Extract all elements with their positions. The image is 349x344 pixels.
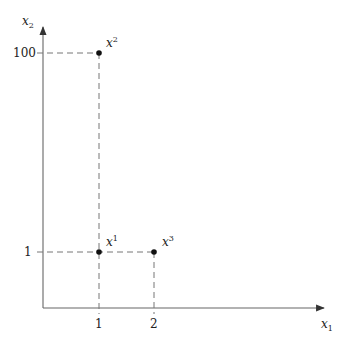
guide-lines <box>37 53 154 314</box>
point-x3 <box>151 249 157 255</box>
x-tick-1: 1 <box>95 317 103 331</box>
y-tick-1: 1 <box>24 245 32 259</box>
y-axis-label: x2 <box>22 14 34 30</box>
label-x2: x2 <box>106 35 118 50</box>
label-x1: x1 <box>106 234 118 249</box>
point-x1 <box>96 249 102 255</box>
x-axis-label: x1 <box>321 317 333 333</box>
diagram-canvas: x2 x1 x3 100 1 1 2 x2 x1 <box>0 0 349 344</box>
x-tick-2: 2 <box>150 317 158 331</box>
y-tick-100: 100 <box>13 46 36 60</box>
point-x2 <box>96 50 102 56</box>
label-x3: x3 <box>162 234 174 249</box>
